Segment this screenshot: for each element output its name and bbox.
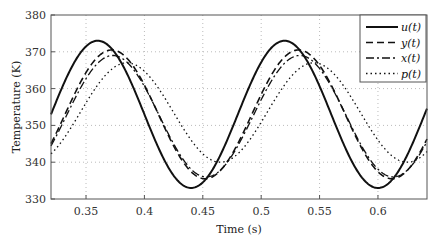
y-tick-label: 350 xyxy=(25,119,46,132)
x-tick-label: 0.6 xyxy=(369,205,387,218)
chart: 0.350.40.450.50.550.6 330340350360370380… xyxy=(0,0,439,243)
y-axis-label: Temperature (K) xyxy=(10,61,23,153)
x-tick-label: 0.4 xyxy=(136,205,154,218)
legend-label: x(t) xyxy=(401,52,420,65)
legend-label: p(t) xyxy=(401,68,421,81)
legend-label: y(t) xyxy=(400,37,420,50)
y-tick-label: 330 xyxy=(25,193,46,206)
x-tick-label: 0.5 xyxy=(252,205,270,218)
legend: u(t)y(t)x(t)p(t) xyxy=(360,15,426,82)
x-axis-label: Time (s) xyxy=(216,223,262,236)
y-tick-label: 370 xyxy=(25,46,46,59)
x-axis: 0.350.40.450.50.550.6 xyxy=(74,195,387,218)
y-tick-label: 340 xyxy=(25,156,46,169)
y-tick-label: 380 xyxy=(25,9,46,22)
legend-label: u(t) xyxy=(401,21,421,34)
x-tick-label: 0.35 xyxy=(74,205,99,218)
x-tick-label: 0.55 xyxy=(307,205,332,218)
y-tick-label: 360 xyxy=(25,83,46,96)
x-tick-label: 0.45 xyxy=(191,205,216,218)
